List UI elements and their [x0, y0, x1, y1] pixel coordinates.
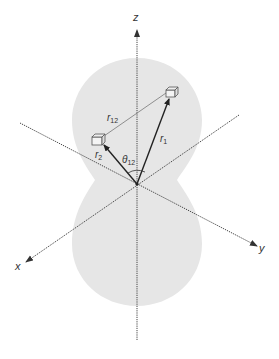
z-axis-label: z [132, 11, 139, 23]
particle-2-box [92, 134, 105, 145]
two-electron-diagram: z x y r12 r1 r2 θ12 [0, 0, 279, 359]
x-axis-label: x [14, 260, 21, 272]
particle-1-box [166, 87, 178, 97]
y-axis-label: y [258, 242, 266, 254]
